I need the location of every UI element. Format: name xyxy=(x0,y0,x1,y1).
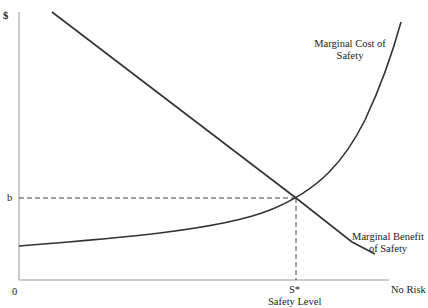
mb-label-line1: Marginal Benefit xyxy=(347,231,428,243)
marginal-cost-label: Marginal Cost of Safety xyxy=(305,38,395,62)
mb-label-line2: of Safety xyxy=(347,243,428,255)
mc-label-line2: Safety xyxy=(305,50,395,62)
marginal-benefit-label: Marginal Benefit of Safety xyxy=(347,231,428,255)
s-star-label: S* xyxy=(289,284,300,296)
y-axis-label: $ xyxy=(3,10,8,22)
origin-label: 0 xyxy=(12,286,17,298)
b-tick-label: b xyxy=(7,192,12,204)
no-risk-label: No Risk xyxy=(391,284,426,296)
x-axis-title: Safety Level xyxy=(268,296,321,308)
mc-label-line1: Marginal Cost of xyxy=(305,38,395,50)
